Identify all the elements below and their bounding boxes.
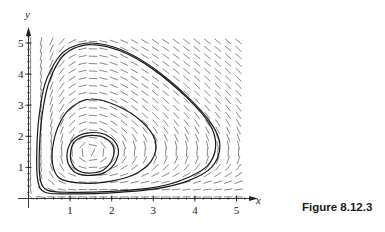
y-axis-label: y xyxy=(24,8,30,20)
field-segment xyxy=(50,104,53,112)
field-segment xyxy=(235,39,241,45)
field-segment xyxy=(173,39,180,44)
field-segment xyxy=(110,70,118,73)
field-segment xyxy=(110,77,118,80)
field-segment xyxy=(204,39,211,44)
field-segment xyxy=(238,141,240,149)
field-segment xyxy=(110,121,117,125)
field-segment xyxy=(173,46,180,51)
field-segment xyxy=(101,142,106,148)
field-segment xyxy=(89,137,97,138)
field-segment xyxy=(68,173,76,176)
field-segment xyxy=(50,97,53,105)
field-segment xyxy=(40,45,42,53)
field-segment xyxy=(120,181,128,182)
field-segment xyxy=(194,90,200,96)
field-segment xyxy=(120,189,128,190)
field-segment xyxy=(131,91,138,96)
field-segment xyxy=(185,134,188,142)
field-segment xyxy=(205,98,211,104)
field-segment xyxy=(110,55,118,58)
field-segment xyxy=(120,77,128,81)
field-segment xyxy=(142,91,149,96)
field-segment xyxy=(143,156,147,164)
field-segment xyxy=(131,98,138,103)
field-segment xyxy=(236,112,241,119)
field-segment xyxy=(69,98,76,103)
field-segment xyxy=(162,181,170,183)
field-segment xyxy=(165,141,167,149)
field-segment xyxy=(99,70,107,72)
field-segment xyxy=(184,120,189,127)
field-segment xyxy=(236,105,241,112)
y-tick-label: 5 xyxy=(18,37,24,49)
field-segment xyxy=(99,92,107,94)
field-segment xyxy=(236,46,242,52)
field-segment xyxy=(131,106,138,111)
field-segment xyxy=(194,61,200,67)
field-segment xyxy=(37,196,45,197)
field-segment xyxy=(185,127,189,134)
field-segment xyxy=(162,69,169,74)
outer-orbit xyxy=(37,43,220,194)
field-segment xyxy=(193,189,201,190)
field-segment xyxy=(194,164,200,170)
field-segment xyxy=(234,189,242,190)
field-segment xyxy=(121,99,128,103)
field-segment xyxy=(30,178,31,186)
field-segment xyxy=(203,189,211,190)
field-segment xyxy=(110,40,118,43)
field-segment xyxy=(50,112,52,120)
field-segment xyxy=(61,156,63,164)
field-segment xyxy=(79,122,87,125)
field-segment xyxy=(216,119,221,126)
field-segment xyxy=(215,164,220,171)
field-segment xyxy=(225,76,231,82)
field-segment xyxy=(227,156,230,164)
field-segment xyxy=(236,83,242,89)
field-segment xyxy=(142,69,149,74)
trajectories xyxy=(37,43,220,194)
field-segment xyxy=(82,148,83,156)
field-segment xyxy=(225,61,231,67)
field-segment xyxy=(121,120,128,125)
x-tick-label: 5 xyxy=(234,204,240,216)
field-segment xyxy=(79,114,87,117)
field-segment xyxy=(152,105,158,111)
field-segment xyxy=(225,46,231,52)
field-segment xyxy=(235,181,243,184)
field-segment xyxy=(152,91,159,96)
field-segment xyxy=(142,113,148,119)
field-segment xyxy=(173,98,179,104)
field-segment xyxy=(215,98,221,104)
field-segment xyxy=(89,159,97,160)
field-segment xyxy=(110,62,118,65)
field-segment xyxy=(215,54,221,60)
field-segment xyxy=(236,68,242,74)
field-segment xyxy=(110,106,118,110)
field-segment xyxy=(41,134,42,142)
field-segment xyxy=(153,120,158,126)
field-segment xyxy=(204,61,210,67)
field-segment xyxy=(196,141,198,149)
field-segment xyxy=(100,121,108,124)
field-segment xyxy=(205,90,211,96)
field-segment xyxy=(152,165,158,171)
axes xyxy=(18,27,258,208)
field-segment xyxy=(226,112,231,119)
field-segment xyxy=(120,40,128,43)
field-segment xyxy=(163,105,169,111)
x-tick-label: 2 xyxy=(109,204,115,216)
field-segment xyxy=(163,112,169,118)
field-segment xyxy=(61,141,62,149)
field-segment xyxy=(142,84,149,89)
field-segment xyxy=(226,105,231,112)
field-segment xyxy=(195,134,198,142)
field-segment xyxy=(215,76,221,82)
field-segment xyxy=(184,164,190,170)
field-segment xyxy=(186,141,188,149)
field-segment xyxy=(141,173,149,176)
field-segment xyxy=(110,128,117,133)
field-segment xyxy=(163,120,168,127)
field-segment xyxy=(215,46,221,52)
